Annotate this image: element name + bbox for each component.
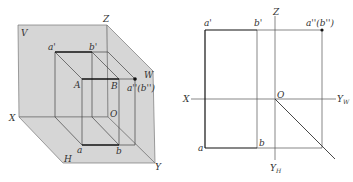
label-z: Z — [102, 14, 110, 24]
label-h: H — [63, 154, 72, 164]
label-yw: YW — [337, 94, 350, 105]
label-o-right: O — [277, 90, 285, 100]
label-a-prime: a' — [48, 42, 56, 52]
right-figure: Z a' b' a''(b'') X O YW a b YH — [182, 7, 350, 174]
label-a: a — [77, 145, 82, 155]
label-y: Y — [155, 162, 162, 172]
label-b-prime: b' — [89, 42, 97, 52]
label-x: X — [8, 113, 16, 123]
point-a-dprime-marker-right — [320, 28, 323, 31]
v-plane — [18, 25, 108, 117]
point-a-dprime-marker — [133, 77, 137, 81]
label-A: A — [73, 80, 81, 90]
label-a-dprime-right: a''(b'') — [306, 18, 335, 28]
label-B: B — [110, 81, 118, 91]
label-z-right: Z — [272, 7, 280, 17]
label-b-prime-right: b' — [254, 18, 262, 28]
label-b: b — [116, 146, 122, 156]
left-figure: V Z W X O H Y a' b' A B a''(b'') a b — [8, 14, 162, 172]
label-x-right: X — [182, 94, 190, 104]
diagonal-45 — [275, 99, 335, 159]
projection-diagram: V Z W X O H Y a' b' A B a''(b'') a b Z — [0, 0, 353, 182]
label-b-right: b — [259, 138, 265, 148]
label-a-dprime: a''(b'') — [127, 83, 156, 93]
label-yh: YH — [270, 163, 282, 174]
label-a-prime-right: a' — [204, 18, 212, 28]
label-w: W — [144, 70, 154, 80]
label-o: O — [110, 109, 118, 119]
label-a-right: a — [198, 143, 203, 153]
